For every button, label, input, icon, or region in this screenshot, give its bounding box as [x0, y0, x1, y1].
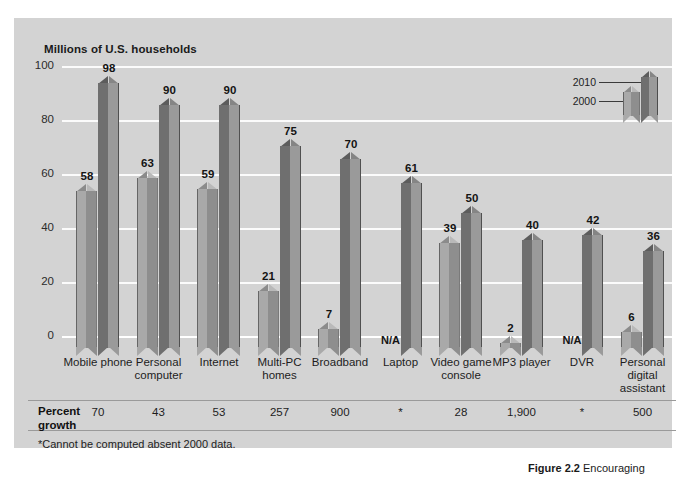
bar-bottom-fold [98, 347, 119, 356]
percent-growth-value: 500 [604, 406, 682, 418]
bar-value-label: 61 [392, 162, 432, 174]
chart-panel: Millions of U.S. households 100 80 60 40… [14, 18, 672, 448]
bar-bottom-fold [76, 347, 97, 356]
bar-value-label: 36 [634, 230, 674, 242]
figure-caption: Figure 2.2 Encouraging [528, 462, 645, 474]
legend-leader-2000 [599, 101, 623, 102]
bar-body [258, 291, 279, 348]
bar-2000: 63 [137, 178, 158, 348]
legend-swatch-2010-bottom [641, 115, 658, 123]
bar-bottom-fold [401, 347, 422, 356]
bar-body [318, 329, 339, 348]
bar-body [582, 235, 603, 348]
bar-2010: 90 [219, 105, 240, 348]
bar-2000: 6 [621, 332, 642, 348]
bar-2000: 7 [318, 329, 339, 348]
bar-2010: 36 [643, 251, 664, 348]
legend-swatch-2000-body [623, 92, 640, 116]
y-axis-title: Millions of U.S. households [44, 43, 197, 55]
percent-growth-row-label-line: growth [38, 419, 80, 433]
bar-body [461, 213, 482, 348]
bar-value-label: 70 [331, 138, 371, 150]
bar-2010: 40 [522, 240, 543, 348]
legend-swatch-2000 [623, 92, 640, 116]
bar-bottom-fold [258, 347, 279, 356]
bar-2000: 2 [500, 343, 521, 348]
bar-body [98, 83, 119, 348]
percent-growth-divider-bottom [28, 430, 676, 431]
bar-bottom-fold [439, 347, 460, 356]
bar-body [621, 332, 642, 348]
y-tick-label-0: 0 [16, 329, 54, 341]
legend-swatch-2010-body [641, 77, 658, 116]
bar-value-label: 98 [89, 62, 129, 74]
figure-caption-text: Encouraging [583, 462, 645, 474]
bar-bottom-fold [340, 347, 361, 356]
y-tick-label-40: 40 [16, 221, 54, 233]
y-tick-label-80: 80 [16, 113, 54, 125]
chart-footnote: *Cannot be computed absent 2000 data. [38, 438, 236, 450]
bar-2000: 21 [258, 291, 279, 348]
bar-bottom-fold [137, 347, 158, 356]
bar-body [159, 105, 180, 348]
bar-2010: 90 [159, 105, 180, 348]
bar-body [219, 105, 240, 348]
bar-bottom-fold [280, 347, 301, 356]
bar-body [340, 159, 361, 348]
bar-body [76, 191, 97, 348]
bar-body [280, 146, 301, 349]
bar-bottom-fold [318, 347, 339, 356]
bar-body [137, 178, 158, 348]
bar-body [197, 189, 218, 348]
legend-label-2000: 2000 [562, 95, 596, 107]
legend-leader-2010 [599, 82, 641, 83]
bar-bottom-fold [461, 347, 482, 356]
bar-2010: 50 [461, 213, 482, 348]
figure-caption-label: Figure 2.2 [528, 462, 580, 474]
legend-swatch-2000-bottom [623, 115, 640, 123]
bar-bottom-fold [219, 347, 240, 356]
bar-value-label: 90 [210, 84, 250, 96]
bar-2000: 39 [439, 243, 460, 348]
legend-swatch-2010 [641, 77, 658, 116]
bar-2010: 42 [582, 235, 603, 348]
bar-value-label: 90 [150, 84, 190, 96]
y-tick-label-100: 100 [16, 59, 54, 71]
legend-label-2010: 2010 [562, 76, 596, 88]
bar-bottom-fold [582, 347, 603, 356]
bar-body [439, 243, 460, 348]
bar-value-label: 50 [452, 192, 492, 204]
bar-bottom-fold [643, 347, 664, 356]
bar-bottom-fold [159, 347, 180, 356]
bar-value-label: 40 [513, 219, 553, 231]
bar-body [643, 251, 664, 348]
bar-2000: 58 [76, 191, 97, 348]
bar-2010: 75 [280, 146, 301, 349]
chart-legend: 2010 2000 [562, 68, 682, 126]
percent-growth-divider-top [28, 400, 676, 401]
category-label: Personal digital assistant [604, 356, 682, 395]
bar-body [401, 183, 422, 348]
y-tick-label-60: 60 [16, 167, 54, 179]
y-tick-label-20: 20 [16, 275, 54, 287]
bar-bottom-fold [197, 347, 218, 356]
bar-value-label: 42 [573, 214, 613, 226]
bar-value-label: 75 [271, 125, 311, 137]
bar-bottom-fold [522, 347, 543, 356]
bar-2010: 61 [401, 183, 422, 348]
bar-2010: 70 [340, 159, 361, 348]
bar-body [522, 240, 543, 348]
bar-2000: 59 [197, 189, 218, 348]
bar-bottom-fold [621, 347, 642, 356]
bar-2010: 98 [98, 83, 119, 348]
bar-bottom-fold [500, 347, 521, 356]
